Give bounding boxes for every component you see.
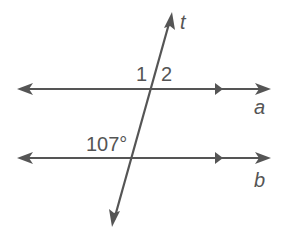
line-b: [17, 152, 271, 164]
parallel-mark-icon: [215, 152, 223, 164]
parallel-mark-icon: [215, 83, 223, 95]
label-line-b: b: [254, 170, 265, 190]
label-angle-2: 2: [161, 64, 172, 84]
diagram-canvas: [0, 0, 287, 234]
arrowhead-up-icon: [164, 12, 175, 30]
label-angle-1: 1: [136, 64, 147, 84]
line-t: [109, 12, 175, 227]
label-given-angle: 107°: [86, 134, 127, 154]
label-line-a: a: [254, 97, 265, 117]
label-line-t: t: [180, 12, 186, 32]
arrowhead-down-icon: [109, 209, 120, 227]
